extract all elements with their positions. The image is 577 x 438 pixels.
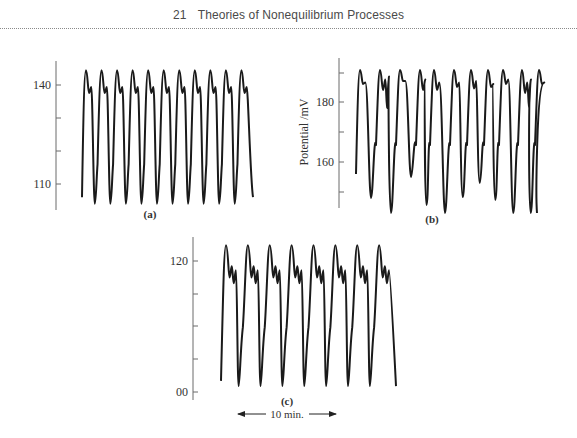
panel-a-tick-label-bottom: 110 [33,177,51,191]
panel-b: 180 160 Potential /mV (b) [297,58,544,226]
panel-b-trace [356,70,544,213]
panel-a: 140 110 (a) [33,61,253,221]
time-scale-label: 10 min. [270,408,304,420]
panel-c-tick-label-bottom: 00 [176,385,188,399]
panel-c-trace [221,245,396,386]
panel-a-tick-label-top: 140 [33,78,51,92]
panel-b-label: (b) [425,213,439,226]
panel-c: 120 00 (c) 10 min. [170,237,396,420]
panel-b-tick-label-bottom: 160 [316,155,334,169]
panel-c-tick-label-top: 120 [170,254,188,268]
panel-b-tick-label-top: 180 [316,95,334,109]
panel-a-trace [82,70,253,204]
figure: 140 110 (a) 180 160 Potential /mV (b) [0,0,577,438]
panel-b-y-axis-title: Potential /mV [297,98,311,165]
time-scale-bar: 10 min. [238,408,336,420]
panel-a-y-axis: 140 110 [33,61,61,210]
panel-b-y-axis: 180 160 Potential /mV [297,58,344,208]
panel-c-label: (c) [281,395,294,408]
panel-c-y-axis: 120 00 [170,237,198,400]
panel-a-label: (a) [144,208,157,221]
